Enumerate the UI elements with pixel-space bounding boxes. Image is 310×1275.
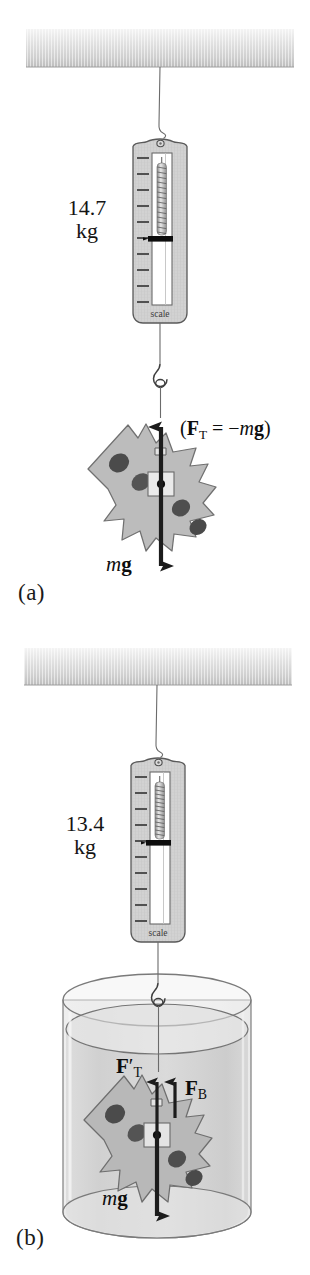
ceiling-b — [24, 648, 292, 685]
scale-reading-a-unit: kg — [50, 219, 124, 242]
figure-canvas: scale — [0, 0, 310, 1275]
force-label-tension-a-text: (FT = −mg) — [180, 417, 271, 439]
force-label-tension-a: (FT = −mg) — [180, 417, 271, 440]
string-knot-a — [163, 133, 166, 139]
ceiling-a — [26, 29, 294, 67]
rock-a — [88, 424, 216, 551]
spring-scale-b: scale — [131, 758, 185, 942]
spring-coil-b — [155, 776, 165, 839]
scale-reading-b-value: 13.4 — [48, 812, 122, 835]
force-label-tension-prime-b-text: F′T — [116, 1054, 142, 1078]
water-surface — [66, 1004, 248, 1054]
spring-scale-a: scale — [133, 139, 187, 323]
scale-reading-a-value: 14.7 — [50, 196, 124, 219]
force-label-weight-a: mg — [106, 552, 132, 577]
scale-word-a: scale — [151, 309, 170, 319]
force-label-tension-prime-b: F′T — [116, 1054, 142, 1079]
scale-reading-b: 13.4 kg — [48, 812, 122, 858]
scale-indicator-a — [148, 236, 173, 242]
panel-label-b: (b) — [16, 1225, 44, 1251]
panel-label-a: (a) — [18, 580, 45, 606]
force-label-buoyant-b: FB — [185, 1076, 207, 1101]
force-label-buoyant-b-text: FB — [185, 1076, 207, 1100]
panel-label-a-text: (a) — [18, 580, 45, 605]
hook-a — [154, 364, 168, 388]
force-label-weight-a-text: mg — [106, 552, 132, 576]
panel-b: scale — [24, 648, 292, 1238]
scale-reading-a: 14.7 kg — [50, 196, 124, 242]
string-ceiling-b — [156, 685, 160, 752]
string-knot-b — [160, 752, 163, 758]
scale-indicator-b — [146, 840, 171, 846]
force-label-weight-b: mg — [102, 1186, 128, 1211]
scale-word-b: scale — [149, 928, 168, 938]
spring-coil-a — [157, 157, 167, 235]
string-ceiling-a — [159, 67, 163, 133]
force-label-weight-b-text: mg — [102, 1186, 128, 1210]
scale-reading-b-unit: kg — [48, 835, 122, 858]
physics-figure-buoyancy: scale — [0, 0, 310, 1275]
panel-a: scale — [26, 29, 294, 566]
panel-label-b-text: (b) — [16, 1225, 44, 1250]
